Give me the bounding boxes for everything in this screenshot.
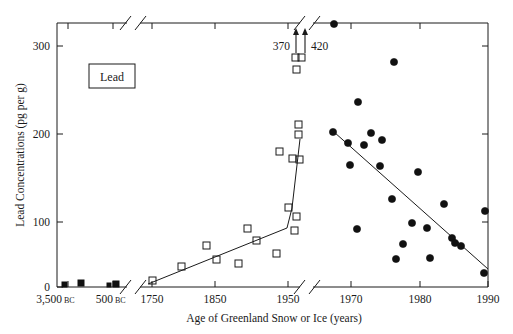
data-point-circle	[426, 254, 433, 261]
data-point-filled-square	[78, 280, 84, 286]
data-point-circle	[354, 98, 361, 105]
data-point-circle	[440, 200, 447, 207]
data-point-open-square	[295, 121, 302, 128]
data-point-circle	[329, 128, 336, 135]
offscale-annotation: 370 420	[273, 28, 329, 53]
data-point-circle	[392, 255, 399, 262]
data-point-filled-square	[62, 282, 67, 287]
x-tick-label-1970: 1970	[340, 293, 363, 305]
data-point-circle	[480, 269, 487, 276]
data-point-circle	[378, 136, 385, 143]
data-point-circle	[408, 219, 415, 226]
data-point-open-square	[244, 225, 251, 232]
data-point-circle	[353, 225, 360, 232]
chart-canvas: 0 100 200 300 3,500 BC 500 BC 1750 1850 …	[0, 0, 513, 334]
data-point-open-square	[235, 260, 242, 267]
data-point-open-square	[293, 213, 300, 220]
data-point-open-square	[285, 204, 292, 211]
x-tick-label-3500bc: 3,500 BC	[36, 293, 75, 306]
y-axis-title: Lead Concentrations (pg per g)	[14, 83, 27, 227]
data-point-circle	[346, 161, 353, 168]
y-tick-label-300: 300	[33, 40, 51, 52]
data-point-open-square	[203, 242, 210, 249]
data-point-circle	[414, 168, 421, 175]
data-point-filled-square	[107, 283, 111, 287]
data-point-open-square	[273, 250, 280, 257]
x-tick-label-1850: 1850	[204, 293, 227, 305]
x-tick-label-1980: 1980	[409, 293, 432, 305]
trendline-modern	[334, 132, 488, 269]
data-point-circle	[457, 242, 464, 249]
data-point-filled-square	[113, 281, 119, 287]
data-point-open-square	[295, 131, 302, 138]
series-ancient-ice	[62, 280, 119, 287]
x-tick-label-1750: 1750	[141, 293, 164, 305]
x-tick-value-3500: 3,500	[36, 293, 62, 306]
x-tick-era-bc-1: BC	[64, 296, 75, 305]
x-tick-value-500: 500	[96, 293, 114, 305]
lead-concentration-chart: 0 100 200 300 3,500 BC 500 BC 1750 1850 …	[0, 0, 513, 334]
data-point-open-square	[289, 155, 296, 162]
data-point-circle	[390, 58, 397, 65]
data-point-circle	[360, 141, 367, 148]
x-tick-label-1990: 1990	[477, 293, 500, 305]
data-point-circle	[388, 195, 395, 202]
y-tick-label-200: 200	[33, 128, 51, 140]
data-point-circle	[376, 162, 383, 169]
data-point-open-square	[291, 227, 298, 234]
plot-frame	[57, 23, 488, 287]
legend-box: Lead	[89, 64, 135, 88]
x-tick-label-1950: 1950	[277, 293, 300, 305]
x-tick-era-bc-2: BC	[115, 296, 126, 305]
data-point-open-square	[293, 66, 300, 73]
data-point-circle	[344, 139, 351, 146]
arrow-up-icon	[302, 28, 308, 35]
x-axis-title: Age of Greenland Snow or Ice (years)	[186, 312, 362, 325]
data-point-open-square	[276, 148, 283, 155]
y-tick-label-0: 0	[44, 281, 50, 293]
annotation-370: 370	[273, 40, 291, 52]
y-tick-label-100: 100	[33, 216, 51, 228]
legend-label: Lead	[100, 70, 124, 84]
annotation-420: 420	[311, 40, 329, 52]
data-point-open-square	[178, 263, 185, 270]
data-point-circle	[399, 240, 406, 247]
data-point-circle	[330, 20, 337, 27]
series-historical-ice	[149, 54, 305, 284]
data-point-circle	[481, 207, 488, 214]
data-point-circle	[423, 224, 430, 231]
data-point-circle	[367, 129, 374, 136]
trendline-historical	[148, 139, 300, 284]
x-tick-label-500bc: 500 BC	[96, 293, 126, 305]
arrow-up-icon	[293, 28, 299, 35]
